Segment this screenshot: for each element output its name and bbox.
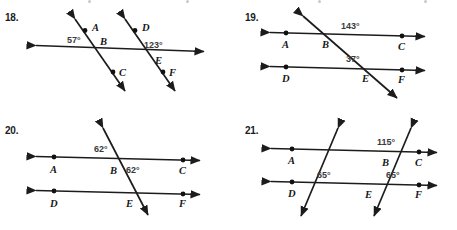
line-20-lower-parallel — [36, 191, 200, 195]
line-21-lower-parallel — [271, 182, 437, 186]
label-20-C: C — [179, 165, 187, 176]
label-21-A: A — [287, 155, 295, 166]
worksheet-page: 18. A B C D E F 57° 123° — [0, 0, 457, 230]
label-21-B: B — [381, 157, 389, 168]
line-18-horizontal — [36, 46, 204, 52]
problem-20: 20. A B C D E F 62° 62° — [0, 115, 228, 230]
label-20-D: D — [49, 198, 58, 209]
point-20-F — [181, 192, 186, 197]
point-20-A — [52, 155, 57, 160]
point-20-C — [181, 158, 186, 163]
label-21-D: D — [287, 188, 296, 199]
problem-18-figure: A B C D E F 57° 123° — [0, 0, 228, 115]
label-21-C: C — [415, 157, 423, 168]
label-18-A: A — [91, 22, 99, 33]
problem-21: 21. A B C D E F 115° — [229, 115, 457, 230]
point-19-C — [400, 34, 405, 39]
angle-19-37: 37° — [346, 54, 360, 64]
label-21-E: E — [364, 189, 372, 200]
point-21-F — [417, 183, 422, 188]
problem-21-figure: A B C D E F 115° 65° 65° — [229, 115, 457, 230]
label-19-A: A — [281, 39, 289, 50]
problem-20-figure: A B C D E F 62° 62° — [0, 115, 228, 230]
point-18-F — [161, 70, 166, 75]
label-21-F: F — [414, 189, 422, 200]
label-18-E: E — [154, 55, 162, 66]
point-21-C — [417, 150, 422, 155]
problem-19: 19. A B C D E F 143° 37° — [229, 0, 457, 115]
angle-21-65-left: 65° — [317, 170, 331, 180]
label-20-A: A — [49, 164, 57, 175]
label-19-D: D — [281, 73, 290, 84]
angle-20-62-right: 62° — [126, 165, 140, 175]
line-21-upper-parallel — [271, 149, 437, 153]
angle-18-123: 123° — [144, 40, 163, 50]
label-19-E: E — [361, 73, 369, 84]
label-19-F: F — [397, 74, 405, 85]
point-18-C — [111, 70, 116, 75]
point-19-D — [284, 65, 289, 70]
angle-21-65-right: 65° — [386, 170, 400, 180]
point-20-D — [52, 189, 57, 194]
label-18-F: F — [168, 67, 176, 78]
point-19-A — [284, 31, 289, 36]
angle-18-57: 57° — [67, 35, 81, 45]
line-18-transversal-2 — [125, 19, 175, 91]
angle-19-143: 143° — [341, 21, 360, 31]
label-18-B: B — [99, 36, 107, 47]
point-21-A — [290, 147, 295, 152]
label-19-B: B — [321, 39, 329, 50]
line-18-transversal-1 — [75, 19, 125, 91]
label-20-F: F — [178, 198, 186, 209]
label-18-D: D — [141, 22, 150, 33]
point-21-D — [290, 180, 295, 185]
point-18-A — [83, 28, 88, 33]
label-18-C: C — [119, 67, 127, 78]
label-19-C: C — [398, 41, 406, 52]
point-19-F — [400, 68, 405, 73]
label-20-B: B — [109, 165, 117, 176]
problem-19-figure: A B C D E F 143° 37° — [229, 0, 457, 115]
angle-20-62-left: 62° — [94, 144, 108, 154]
angle-21-115: 115° — [377, 137, 396, 147]
point-18-D — [133, 28, 138, 33]
label-20-E: E — [125, 198, 133, 209]
problem-18: 18. A B C D E F 57° 123° — [0, 0, 228, 115]
